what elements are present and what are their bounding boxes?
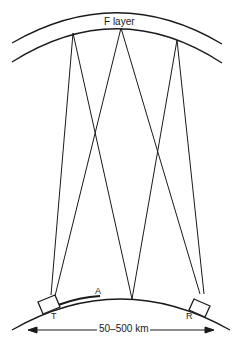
point-a-label: A — [95, 286, 101, 296]
receiver-label: R — [186, 311, 193, 321]
distance-label: 50–500 km — [97, 323, 150, 334]
transmitter-label: T — [51, 311, 57, 321]
ray-paths — [51, 28, 204, 299]
diagram-drawing — [0, 0, 239, 342]
f-layer-label: F layer — [104, 16, 135, 27]
ionospheric-propagation-diagram: F layer A T R 50–500 km — [0, 0, 239, 342]
